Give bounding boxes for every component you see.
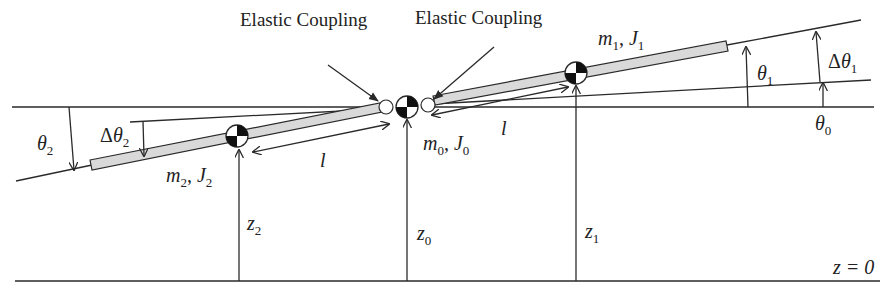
body2-mass-label: m2, J2 bbox=[166, 164, 212, 190]
body1-axis-line bbox=[727, 20, 861, 45]
theta1-label: θ1 bbox=[757, 62, 773, 88]
body0-mass-label: m0, J0 bbox=[423, 132, 469, 158]
z1-label: z1 bbox=[584, 220, 599, 246]
theta0-label: θ0 bbox=[815, 112, 831, 138]
elastic-coupling-left-label: Elastic Coupling bbox=[240, 9, 368, 30]
body0-com-icon bbox=[396, 96, 418, 118]
theta2-arrow bbox=[69, 107, 74, 170]
z0-label: z0 bbox=[416, 222, 431, 248]
elastic-coupling-right-label: Elastic Coupling bbox=[415, 7, 543, 28]
length-label-right: l bbox=[501, 117, 507, 139]
length-label-left: l bbox=[320, 149, 326, 171]
three-body-elastic-coupling-diagram: z = 0 z2 z0 z1 l l Elastic Coupling bbox=[0, 0, 888, 297]
ground-label: z = 0 bbox=[832, 256, 874, 278]
body2-axis-line bbox=[16, 165, 92, 181]
elastic-coupling-left-icon bbox=[379, 100, 393, 114]
elastic-coupling-left-pointer bbox=[328, 65, 378, 101]
dtheta1-label: Δθ1 bbox=[828, 50, 857, 76]
theta1-arrow bbox=[746, 47, 748, 107]
z2-label: z2 bbox=[246, 212, 261, 238]
body1-com-icon bbox=[565, 62, 587, 84]
body2-com-icon bbox=[226, 125, 248, 147]
dtheta1-arrow bbox=[816, 32, 820, 82]
dtheta2-label: Δθ2 bbox=[100, 124, 129, 150]
body1-mass-label: m1, J1 bbox=[598, 27, 644, 53]
theta2-label: θ2 bbox=[37, 132, 53, 158]
elastic-coupling-right-icon bbox=[421, 98, 435, 112]
